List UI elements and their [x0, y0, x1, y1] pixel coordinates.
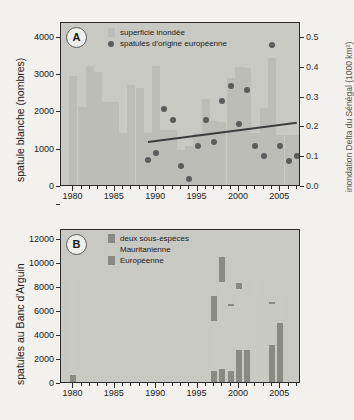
data-point [228, 83, 234, 89]
ytick [300, 186, 304, 187]
bar-segment [236, 289, 242, 350]
bar-segment [269, 345, 275, 382]
legend-item: deux sous-espèces [108, 233, 189, 244]
ytick [56, 37, 60, 38]
xtick [172, 383, 173, 386]
ytick-label: 0 [49, 182, 54, 191]
stacked-bar [269, 302, 275, 382]
xtick [254, 383, 255, 386]
bar-segment [70, 277, 76, 374]
ytick [300, 37, 304, 38]
bar-segment [219, 282, 225, 369]
xtick [288, 186, 289, 189]
xtick [205, 186, 206, 189]
bar-segment [219, 257, 225, 282]
xtick [271, 186, 272, 189]
xtick [172, 186, 173, 189]
ytick-label: 6000 [34, 306, 54, 315]
bar-swatch-icon [108, 245, 115, 254]
legend-label: superficie inondée [120, 28, 185, 37]
xtick-label: 2000 [228, 389, 248, 398]
bar-segment [219, 369, 225, 382]
bar-segment [211, 322, 217, 372]
ytick-label: 0 [49, 379, 54, 388]
xtick [122, 383, 123, 386]
ytick [300, 97, 304, 98]
bar-segment [236, 283, 242, 289]
xtick [180, 383, 181, 386]
data-point [294, 153, 300, 159]
figure-root: spatule blanche (nombres) inondation Del… [0, 0, 354, 420]
legend-item: spatules d'origine européenne [108, 38, 227, 49]
xtick [89, 383, 90, 386]
panel-a-ylabel: spatule blanche (nombres) [14, 58, 26, 182]
data-point [252, 143, 258, 149]
xtick-label: 1990 [145, 389, 165, 398]
ytick [56, 263, 60, 264]
panel-b: spatules au Banc d'Arguin 02000400060008… [0, 205, 354, 420]
ytick [300, 156, 304, 157]
legend-label: Européenne [120, 256, 164, 265]
ytick [56, 239, 60, 240]
panel-a-legend: superficie inondée spatules d'origine eu… [108, 27, 227, 49]
bar-segment [269, 304, 275, 345]
panel-a: spatule blanche (nombres) inondation Del… [0, 0, 354, 205]
legend-item: Européenne [108, 255, 189, 266]
bar-segment [269, 302, 275, 304]
xtick-label: 2005 [269, 192, 289, 201]
legend-label: Mauritanienne [120, 245, 171, 254]
xtick [246, 186, 247, 189]
stacked-bar [277, 296, 283, 382]
xtick [221, 383, 222, 386]
xtick [89, 186, 90, 189]
ytick [56, 149, 60, 150]
ytick-label: 2000 [34, 354, 54, 363]
xtick [271, 383, 272, 386]
panel-b-legend: deux sous-espèces Mauritanienne Européen… [108, 233, 189, 266]
panel-a-letter-badge: A [66, 27, 87, 48]
data-point [178, 163, 184, 169]
xtick-label: 2005 [269, 389, 289, 398]
dot-marker-icon [108, 41, 114, 47]
stacked-bar [261, 300, 267, 382]
xtick [221, 186, 222, 189]
bar-segment [70, 375, 76, 382]
xtick [97, 186, 98, 189]
bar-segment [277, 296, 283, 323]
xtick [263, 383, 264, 386]
xtick [296, 383, 297, 386]
bar-swatch-icon [108, 256, 115, 265]
xtick [205, 383, 206, 386]
xtick [230, 186, 231, 189]
xtick [139, 186, 140, 189]
ytick-label: 10000 [29, 258, 54, 267]
xtick [163, 186, 164, 189]
xtick [97, 383, 98, 386]
stacked-bar [219, 257, 225, 382]
legend-label: spatules d'origine européenne [120, 39, 227, 48]
ytick [56, 74, 60, 75]
ytick-label: 8000 [34, 282, 54, 291]
ytick-label: 0.3 [306, 92, 319, 101]
data-point [203, 117, 209, 123]
ytick [56, 359, 60, 360]
data-point [195, 143, 201, 149]
ytick [56, 111, 60, 112]
legend-item: Mauritanienne [108, 244, 189, 255]
data-point [186, 176, 192, 182]
bar-segment [211, 371, 217, 382]
data-point [244, 87, 250, 93]
data-point [286, 158, 292, 164]
data-point [153, 150, 159, 156]
xtick [288, 383, 289, 386]
panel-a-ticks-right: 0.00.10.20.30.40.5 [300, 22, 324, 186]
bar-segment [261, 300, 267, 382]
bar-segment [244, 295, 250, 350]
ytick [56, 335, 60, 336]
xtick [122, 186, 123, 189]
xtick-label: 1995 [187, 192, 207, 201]
data-point [261, 153, 267, 159]
xtick [263, 186, 264, 189]
panel-b-letter-badge: B [66, 234, 87, 255]
panel-a-ticks-x: 198019851990199520002005 [60, 186, 300, 202]
